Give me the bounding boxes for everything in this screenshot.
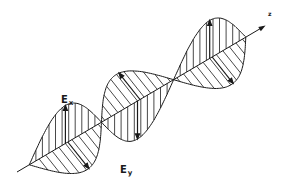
- ex-label-subscript: x: [69, 99, 74, 107]
- hatch-line: [79, 136, 97, 158]
- hatch-line: [223, 51, 241, 73]
- hatch-line: [117, 74, 138, 101]
- hatch-line: [216, 55, 236, 81]
- hatch-line: [203, 62, 223, 87]
- em-wave-diagram: [0, 0, 295, 188]
- hatch-line: [107, 86, 125, 108]
- hatch-line: [133, 71, 151, 93]
- ex-label-main: E: [61, 94, 68, 105]
- ey-label: Ey: [120, 160, 132, 176]
- hatch-line: [236, 43, 245, 54]
- hatch-line: [92, 128, 101, 139]
- hatch-line: [65, 144, 86, 171]
- hatch-line: [111, 79, 131, 104]
- ey-label-main: E: [120, 164, 127, 175]
- ey-label-subscript: y: [128, 169, 133, 177]
- hatch-line: [72, 140, 92, 166]
- hatch-line: [124, 72, 144, 98]
- hatch-line: [59, 147, 79, 173]
- hatch-line: [103, 105, 112, 116]
- ex-label: Ex: [61, 90, 73, 106]
- z-axis-arrowhead-icon: [258, 25, 265, 31]
- hatch-line: [197, 66, 215, 88]
- hatch-line: [52, 151, 70, 173]
- z-axis-label: z: [268, 11, 272, 17]
